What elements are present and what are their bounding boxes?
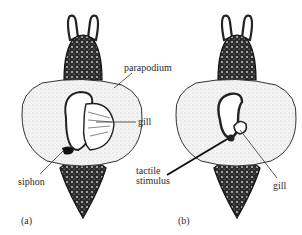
- panel-label-a: (a): [21, 216, 32, 226]
- aplysia-gill-withdrawal-diagram: parapodium gill siphon (a) tactile stimu…: [0, 0, 302, 235]
- label-parapodium: parapodium: [124, 63, 172, 73]
- panel-label-b: (b): [178, 216, 190, 226]
- label-gill-b: gill: [273, 181, 286, 191]
- label-gill-a: gill: [138, 117, 151, 127]
- slug-a: [22, 16, 142, 218]
- label-siphon: siphon: [18, 177, 45, 187]
- label-stimulus: stimulus: [136, 176, 170, 186]
